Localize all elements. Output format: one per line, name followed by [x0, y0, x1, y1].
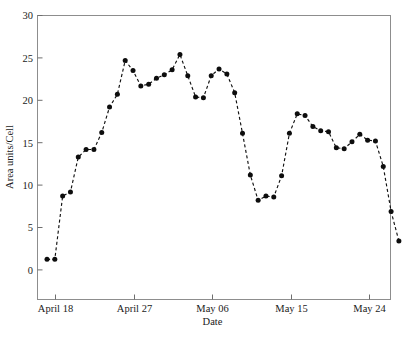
x-tick-label: April 27 [117, 303, 152, 314]
data-point [162, 72, 167, 77]
data-point [287, 131, 292, 136]
y-tick-label: 20 [23, 95, 34, 106]
data-point [91, 147, 96, 152]
data-point [68, 189, 73, 194]
data-point [209, 73, 214, 78]
data-point [342, 146, 347, 151]
data-point [295, 111, 300, 116]
data-point [52, 257, 57, 262]
data-point [193, 94, 198, 99]
data-point [365, 138, 370, 143]
data-point [84, 147, 89, 152]
data-point [131, 68, 136, 73]
data-point [123, 58, 128, 63]
data-point [334, 145, 339, 150]
y-tick-labels: 30 25 20 15 10 5 0 [23, 10, 34, 275]
data-point [349, 139, 354, 144]
series-line [47, 55, 399, 260]
data-point [201, 95, 206, 100]
data-point [240, 131, 245, 136]
data-point [381, 164, 386, 169]
data-point [177, 52, 182, 57]
data-point [185, 73, 190, 78]
x-tick-label: May 24 [353, 303, 386, 314]
line-chart: 30 25 20 15 10 5 0 Area units/Cell April… [0, 0, 405, 342]
x-tick-label: April 18 [38, 303, 73, 314]
y-tick-label: 30 [23, 10, 34, 21]
data-point [279, 173, 284, 178]
y-axis-title: Area units/Cell [4, 125, 15, 189]
data-point [326, 129, 331, 134]
data-point [357, 132, 362, 137]
data-point [232, 90, 237, 95]
data-point [60, 194, 65, 199]
data-point [45, 257, 50, 262]
figure-container: 30 25 20 15 10 5 0 Area units/Cell April… [0, 0, 405, 342]
x-tick-marks [56, 295, 370, 300]
y-tick-label: 0 [28, 265, 33, 276]
data-point [256, 198, 261, 203]
x-tick-label: May 06 [196, 303, 228, 314]
data-point [373, 139, 378, 144]
data-series-group [45, 52, 402, 262]
x-axis-title: Date [203, 316, 223, 327]
data-point [389, 209, 394, 214]
data-point [396, 239, 401, 244]
data-point [271, 194, 276, 199]
data-point [138, 83, 143, 88]
data-point [248, 172, 253, 177]
series-markers [45, 52, 402, 262]
data-point [263, 194, 268, 199]
data-point [107, 105, 112, 110]
data-point [115, 92, 120, 97]
y-axis: 30 25 20 15 10 5 0 Area units/Cell [4, 10, 43, 275]
data-point [310, 124, 315, 129]
data-point [99, 130, 104, 135]
y-tick-label: 25 [23, 53, 34, 64]
plot-frame [38, 16, 391, 300]
y-tick-marks [38, 16, 43, 270]
data-point [154, 76, 159, 81]
data-point [170, 67, 175, 72]
x-tick-labels: April 18 April 27 May 06 May 15 May 24 [38, 303, 387, 314]
y-tick-label: 15 [23, 138, 34, 149]
data-point [224, 72, 229, 77]
y-tick-label: 10 [23, 180, 34, 191]
caption-ghost [0, 332, 405, 342]
x-tick-label: May 15 [275, 303, 307, 314]
data-point [318, 128, 323, 133]
y-tick-label: 5 [28, 222, 33, 233]
data-point [303, 113, 308, 118]
data-point [146, 82, 151, 87]
data-point [217, 66, 222, 71]
data-point [76, 155, 81, 160]
